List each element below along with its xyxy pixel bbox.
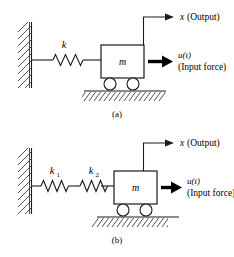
- panel-a-caption: (a): [112, 109, 122, 119]
- spring-subscript-1: 1: [57, 171, 61, 179]
- output-arrow: x (Output): [144, 12, 220, 45]
- spring-k: k: [32, 39, 102, 66]
- fixed-wall: [14, 18, 32, 106]
- input-force-arrow: u(t) (Input force): [148, 50, 226, 73]
- output-annotation: (Output): [187, 138, 220, 149]
- spring-label-k1: k: [50, 165, 55, 176]
- wheels: [117, 204, 152, 216]
- input-label-ut: u(t): [178, 50, 191, 60]
- mass-block: m: [101, 45, 144, 78]
- output-label-x: x: [179, 138, 185, 148]
- spring-k1: k 1: [32, 165, 81, 192]
- panel-b-caption: (b): [112, 235, 123, 245]
- output-arrow: x (Output): [144, 138, 220, 171]
- spring-k2: k 2: [80, 165, 114, 192]
- mass-label: m: [119, 56, 126, 67]
- ground: [92, 216, 180, 227]
- output-annotation: (Output): [187, 12, 220, 23]
- ground: [79, 90, 167, 101]
- input-label-ut: u(t): [187, 176, 200, 186]
- spring-label-k: k: [62, 39, 67, 50]
- panel-b: k 1 k 2 m: [14, 138, 234, 245]
- spring-subscript-2: 2: [96, 171, 100, 179]
- fixed-wall: [14, 144, 32, 232]
- mass-block: m: [114, 171, 157, 204]
- input-force-arrow: u(t) (Input force): [161, 176, 234, 199]
- ground-hatching: [79, 90, 167, 101]
- mass-spring-figure: k m: [0, 0, 234, 257]
- ground-hatching: [92, 216, 180, 227]
- input-annotation: (Input force): [178, 62, 226, 73]
- panel-a: k m: [14, 12, 226, 119]
- output-label-x: x: [179, 12, 185, 22]
- spring-label-k2: k: [89, 165, 94, 176]
- input-annotation: (Input force): [187, 188, 234, 199]
- mass-label: m: [132, 182, 139, 193]
- wheels: [104, 78, 139, 90]
